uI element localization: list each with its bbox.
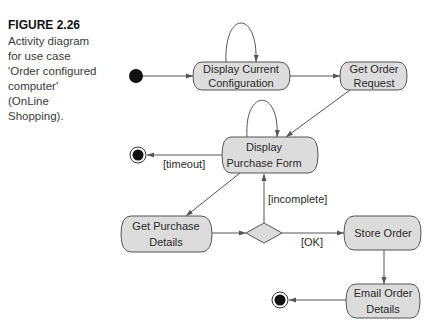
- action-get-order-request: Get Order Request: [340, 62, 407, 90]
- node-label: Get Purchase: [132, 220, 199, 232]
- activity-diagram: Display Current Configuration Get Order …: [0, 0, 447, 330]
- initial-node: [129, 69, 143, 83]
- node-label: Display: [246, 141, 283, 153]
- edge-get-order-to-display-form: [286, 90, 350, 137]
- node-label: Details: [366, 303, 400, 315]
- node-label: Request: [354, 77, 395, 89]
- edge-display-config-self-loop: [226, 23, 256, 62]
- node-label: Display Current: [203, 63, 279, 75]
- edge-display-form-to-get-purchase: [186, 173, 240, 216]
- final-node: [272, 292, 288, 308]
- guard-ok: [OK]: [301, 236, 323, 248]
- edge-display-form-self-loop: [247, 100, 277, 137]
- guard-timeout: [timeout]: [163, 158, 205, 170]
- node-label: Purchase Form: [226, 157, 301, 169]
- node-label: Details: [149, 236, 183, 248]
- node-label: Configuration: [208, 77, 273, 89]
- action-get-purchase-details: Get Purchase Details: [121, 216, 212, 252]
- node-label: Get Order: [350, 63, 399, 75]
- decision-node: [246, 223, 282, 243]
- action-display-purchase-form: Display Purchase Form: [222, 137, 318, 173]
- action-email-order-details: Email Order Details: [346, 284, 420, 318]
- action-store-order: Store Order: [344, 216, 421, 250]
- node-label: Email Order: [354, 287, 413, 299]
- action-display-current-configuration: Display Current Configuration: [193, 62, 290, 90]
- node-label: Store Order: [354, 227, 412, 239]
- guard-incomplete: [incomplete]: [268, 193, 327, 205]
- final-node: [130, 147, 146, 163]
